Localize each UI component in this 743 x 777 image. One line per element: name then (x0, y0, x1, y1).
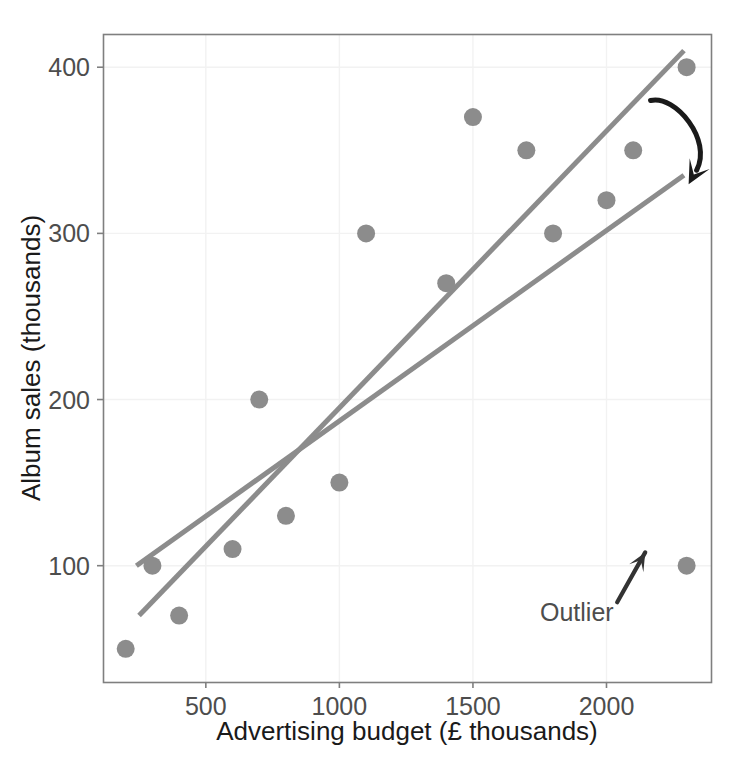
scatter-point (624, 141, 642, 159)
scatter-point (517, 141, 535, 159)
chart-canvas: 500100015002000 100200300400 Outlier Adv… (0, 0, 743, 777)
scatter-point (224, 540, 242, 558)
scatter-point (544, 224, 562, 242)
y-tick-label-1: 200 (48, 386, 90, 414)
scatter-point (277, 507, 295, 525)
y-axis-title: Album sales (thousands) (16, 215, 46, 501)
scatter-point (143, 557, 161, 575)
scatter-point (678, 58, 696, 76)
y-tick-label-2: 300 (48, 219, 90, 247)
figure-background (0, 0, 743, 777)
y-tick-label-3: 400 (48, 53, 90, 81)
scatter-point (330, 474, 348, 492)
outlier-label: Outlier (540, 598, 614, 626)
scatter-point (437, 274, 455, 292)
scatter-point (250, 391, 268, 409)
y-tick-label-0: 100 (48, 552, 90, 580)
scatter-point (678, 557, 696, 575)
scatter-plot-figure: 500100015002000 100200300400 Outlier Adv… (0, 0, 743, 777)
scatter-point (357, 224, 375, 242)
x-axis-title: Advertising budget (£ thousands) (216, 716, 598, 746)
scatter-point (464, 108, 482, 126)
scatter-point (117, 640, 135, 658)
scatter-point (170, 607, 188, 625)
scatter-point (597, 191, 615, 209)
